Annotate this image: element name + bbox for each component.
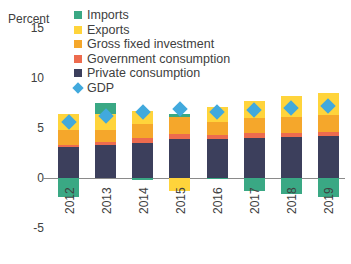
bar-segment-gross-fixed-investment-2015 — [169, 117, 190, 134]
bar-segment-government-consumption-2012 — [58, 145, 79, 147]
bar-segment-government-consumption-2016 — [207, 135, 228, 139]
y-tick-10: 10 — [0, 71, 44, 85]
bar-segment-private-consumption-2012 — [58, 147, 79, 178]
bar-segment-gross-fixed-investment-2014 — [132, 124, 153, 138]
legend-item-imports: Imports — [74, 8, 230, 23]
legend-item-gdp: GDP — [74, 81, 230, 96]
legend-swatch-government-consumption — [74, 55, 82, 63]
bar-segment-gross-fixed-investment-2013 — [95, 130, 116, 142]
bar-segment-gross-fixed-investment-2018 — [281, 117, 302, 133]
x-axis-label-2013: 2013 — [100, 187, 114, 214]
legend-label-exports: Exports — [87, 24, 129, 37]
y-tick-minus-5: -5 — [0, 221, 44, 235]
bar-segment-gross-fixed-investment-2012 — [58, 130, 79, 145]
x-axis-label-2014: 2014 — [137, 187, 151, 214]
bar-segment-private-consumption-2014 — [132, 143, 153, 178]
y-tick-15: 15 — [0, 21, 44, 35]
x-axis-label-2019: 2019 — [322, 187, 336, 214]
bar-segment-private-consumption-2019 — [318, 136, 339, 178]
bar-segment-government-consumption-2015 — [169, 134, 190, 139]
legend-swatch-private-consumption — [74, 69, 82, 77]
legend-swatch-exports — [74, 26, 82, 34]
chart-legend: Imports Exports Gross fixed investment G… — [74, 8, 230, 95]
legend-label-gross-fixed-investment: Gross fixed investment — [87, 38, 214, 51]
legend-item-private-consumption: Private consumption — [74, 66, 230, 81]
bar-segment-government-consumption-2019 — [318, 132, 339, 136]
legend-swatch-gdp-diamond-icon — [72, 82, 83, 93]
bar-segment-government-consumption-2018 — [281, 133, 302, 137]
legend-item-exports: Exports — [74, 23, 230, 38]
x-axis-label-2012: 2012 — [63, 187, 77, 214]
x-axis-label-2017: 2017 — [248, 187, 262, 214]
bar-segment-gross-fixed-investment-2019 — [318, 115, 339, 132]
bar-segment-imports-2014 — [132, 178, 153, 180]
bar-segment-imports-2016 — [207, 178, 228, 179]
bar-segment-private-consumption-2017 — [244, 138, 265, 178]
economic-growth-contributions-chart: Percent 15 10 5 0 -5 2012201320142015201… — [0, 0, 351, 264]
y-tick-0: 0 — [0, 171, 44, 185]
legend-label-government-consumption: Government consumption — [87, 53, 230, 66]
bar-segment-government-consumption-2013 — [95, 142, 116, 145]
x-axis-label-2018: 2018 — [285, 187, 299, 214]
legend-label-private-consumption: Private consumption — [87, 67, 200, 80]
y-tick-5: 5 — [0, 121, 44, 135]
x-axis-label-2015: 2015 — [174, 187, 188, 214]
bar-segment-gross-fixed-investment-2016 — [207, 122, 228, 135]
x-axis-label-2016: 2016 — [211, 187, 225, 214]
bar-segment-gross-fixed-investment-2017 — [244, 118, 265, 133]
bar-segment-private-consumption-2018 — [281, 137, 302, 178]
legend-label-imports: Imports — [87, 9, 129, 22]
legend-label-gdp: GDP — [87, 82, 114, 95]
bar-segment-government-consumption-2017 — [244, 133, 265, 138]
legend-item-government-consumption: Government consumption — [74, 52, 230, 67]
bar-segment-private-consumption-2016 — [207, 139, 228, 178]
bar-segment-private-consumption-2015 — [169, 139, 190, 178]
bar-segment-government-consumption-2014 — [132, 138, 153, 143]
legend-swatch-imports — [74, 11, 82, 19]
legend-swatch-gross-fixed-investment — [74, 40, 82, 48]
bar-segment-private-consumption-2013 — [95, 145, 116, 178]
legend-item-gross-fixed-investment: Gross fixed investment — [74, 37, 230, 52]
